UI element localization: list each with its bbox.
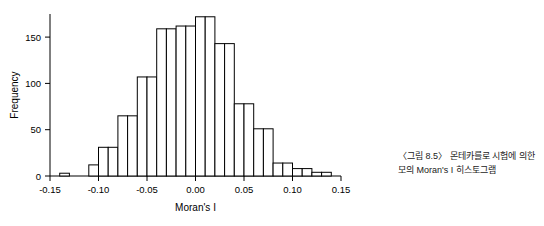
x-axis-title: Moran's I bbox=[175, 202, 216, 213]
histogram-bar bbox=[234, 104, 244, 176]
histogram-bars bbox=[60, 17, 332, 176]
histogram-bar bbox=[157, 29, 167, 176]
y-tick-label-0: 0 bbox=[36, 171, 41, 182]
histogram-bar bbox=[244, 104, 254, 176]
histogram-bar bbox=[176, 26, 186, 176]
histogram-bar bbox=[205, 17, 215, 176]
histogram-bar bbox=[99, 147, 109, 176]
page-root: 0 50 100 150 -0.15 -0.10 -0.05 0.00 0.05… bbox=[0, 0, 544, 226]
histogram-bar bbox=[147, 77, 157, 176]
histogram-bar bbox=[273, 163, 283, 176]
x-tick-label--0.10: -0.10 bbox=[88, 184, 110, 195]
histogram-bar bbox=[128, 116, 138, 176]
histogram-bar bbox=[60, 173, 70, 176]
histogram-bar bbox=[302, 169, 312, 176]
histogram-bar bbox=[215, 44, 225, 176]
histogram-svg: 0 50 100 150 -0.15 -0.10 -0.05 0.00 0.05… bbox=[0, 0, 390, 226]
y-tick-label-50: 50 bbox=[30, 124, 41, 135]
histogram-bar bbox=[263, 129, 273, 176]
x-tick-label-0.00: 0.00 bbox=[186, 184, 205, 195]
figure-caption-line-1: 〈그림 8.5〉 몬테카를로 시험에 의한 bbox=[398, 150, 538, 164]
y-tick-label-100: 100 bbox=[25, 78, 41, 89]
x-tick-label--0.15: -0.15 bbox=[39, 184, 61, 195]
histogram-bar bbox=[89, 165, 99, 176]
x-tick-label-0.05: 0.05 bbox=[235, 184, 254, 195]
histogram-bar bbox=[225, 44, 235, 176]
x-tick-label-0.15: 0.15 bbox=[332, 184, 351, 195]
histogram-bar bbox=[166, 29, 176, 176]
y-axis-title: Frequency bbox=[9, 71, 20, 118]
histogram-figure: 0 50 100 150 -0.15 -0.10 -0.05 0.00 0.05… bbox=[0, 0, 390, 226]
figure-caption-line-2: 모의 Moran's I 히스토그램 bbox=[398, 164, 538, 178]
x-axis-ticks: -0.15 -0.10 -0.05 0.00 0.05 0.10 0.15 bbox=[39, 176, 350, 195]
histogram-bar bbox=[196, 17, 206, 176]
y-tick-label-150: 150 bbox=[25, 32, 41, 43]
histogram-bar bbox=[312, 172, 322, 176]
histogram-bar bbox=[293, 169, 303, 176]
histogram-bar bbox=[283, 163, 293, 176]
y-axis-ticks: 0 50 100 150 bbox=[25, 32, 50, 182]
figure-caption: 〈그림 8.5〉 몬테카를로 시험에 의한 모의 Moran's I 히스토그램 bbox=[398, 150, 538, 177]
histogram-bar bbox=[254, 129, 264, 176]
histogram-bar bbox=[322, 172, 332, 176]
x-tick-label--0.05: -0.05 bbox=[136, 184, 158, 195]
histogram-bar bbox=[137, 77, 147, 176]
x-tick-label-0.10: 0.10 bbox=[283, 184, 302, 195]
histogram-bar bbox=[186, 26, 196, 176]
histogram-bar bbox=[108, 147, 118, 176]
histogram-bar bbox=[118, 116, 128, 176]
